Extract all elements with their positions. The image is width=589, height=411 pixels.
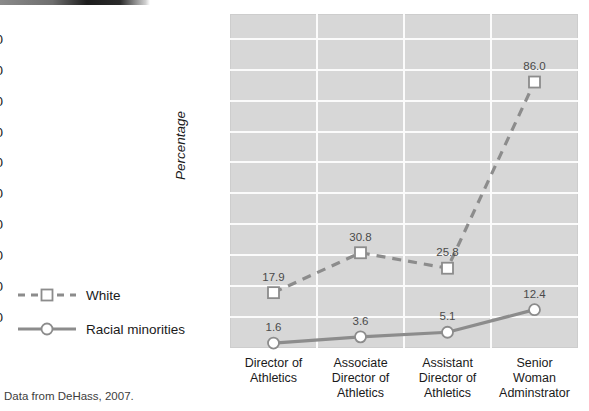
data-point-marker — [268, 287, 279, 298]
x-tick-label: AssistantDirector ofAthletics — [400, 356, 496, 401]
legend: WhiteRacial minorities — [18, 278, 218, 346]
legend-label: White — [86, 288, 121, 303]
x-tick-line: Athletics — [313, 386, 409, 401]
data-point-label: 5.1 — [440, 310, 456, 322]
x-tick-line: Woman — [487, 371, 583, 386]
data-point-marker — [442, 263, 453, 274]
x-tick-line: Director of — [226, 356, 322, 371]
data-point-marker — [529, 77, 540, 88]
source-caption: Data from DeHass, 2007. — [4, 390, 134, 402]
x-tick-line: Athletics — [400, 386, 496, 401]
x-tick-line: Director of — [313, 371, 409, 386]
y-tick-label: 60 — [0, 155, 3, 170]
y-tick-label: 80 — [0, 93, 3, 108]
y-tick-label: 40 — [0, 217, 3, 232]
x-tick-line: Senior — [487, 356, 583, 371]
data-point-marker — [355, 247, 366, 258]
x-tick-label: SeniorWomanAdminstrator — [487, 356, 583, 401]
plot-area: 17.930.825.886.01.63.65.112.4 — [230, 14, 578, 348]
legend-label: Racial minorities — [86, 322, 185, 337]
y-tick-label: 70 — [0, 124, 3, 139]
x-tick-line: Director of — [400, 371, 496, 386]
x-tick-line: Adminstrator — [487, 386, 583, 401]
x-tick-line: Assistant — [400, 356, 496, 371]
legend-swatch-circle-icon — [18, 320, 76, 338]
data-point-marker — [355, 331, 366, 342]
data-point-label: 3.6 — [353, 315, 369, 327]
x-tick-line: Associate — [313, 356, 409, 371]
y-tick-label: 50 — [0, 186, 3, 201]
data-point-label: 30.8 — [349, 231, 371, 243]
page-rule — [0, 0, 150, 5]
data-point-label: 25.8 — [436, 246, 458, 258]
series-line-circle — [274, 310, 535, 343]
data-point-label: 12.4 — [523, 288, 545, 300]
data-point-label: 86.0 — [523, 60, 545, 72]
y-tick-label: 20 — [0, 279, 3, 294]
data-point-marker — [529, 304, 540, 315]
y-tick-label: 100 — [0, 31, 3, 46]
legend-item[interactable]: Racial minorities — [18, 312, 218, 346]
legend-swatch-square-icon — [18, 286, 76, 304]
y-tick-label: 90 — [0, 62, 3, 77]
figure: Percentage 102030405060708090100 17.930.… — [0, 0, 589, 411]
data-point-label: 1.6 — [266, 321, 282, 333]
x-tick-line: Athletics — [226, 371, 322, 386]
y-tick-label: 10 — [0, 310, 3, 325]
y-axis-label: Percentage — [173, 111, 188, 180]
data-point-marker — [268, 338, 279, 349]
y-tick-label: 30 — [0, 248, 3, 263]
x-tick-label: AssociateDirector ofAthletics — [313, 356, 409, 401]
legend-item[interactable]: White — [18, 278, 218, 312]
data-point-label: 17.9 — [262, 271, 284, 283]
series-line-square — [274, 82, 535, 293]
x-tick-label: Director ofAthletics — [226, 356, 322, 386]
data-point-marker — [442, 327, 453, 338]
